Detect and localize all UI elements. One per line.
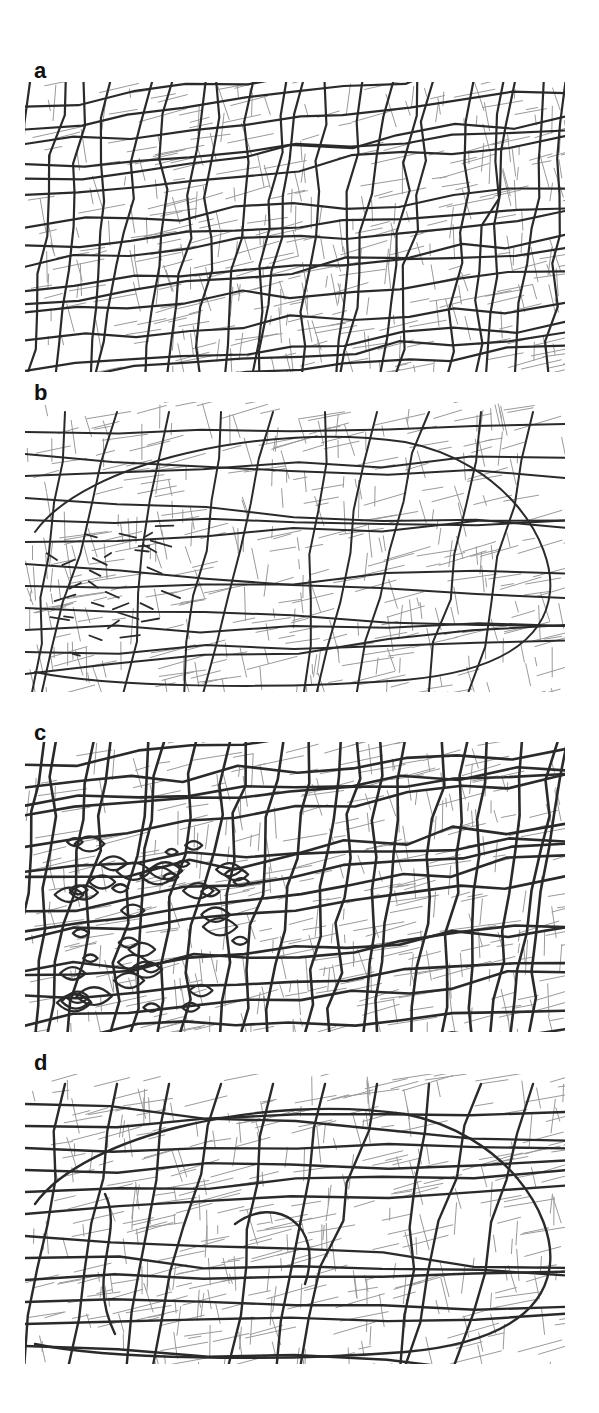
major-streets — [25, 1084, 565, 1364]
minor-streets — [25, 1074, 565, 1364]
panel-d: d — [0, 1052, 599, 1374]
panel-c: c — [0, 722, 599, 1042]
street-network-map — [25, 82, 565, 372]
panel-label: c — [34, 722, 46, 744]
major-streets — [25, 742, 565, 1032]
panel-a: a — [0, 60, 599, 382]
street-network-map — [25, 1074, 565, 1364]
street-network-map — [25, 402, 565, 692]
major-streets — [25, 82, 565, 372]
panel-label: a — [34, 60, 46, 82]
panel-b: b — [0, 382, 599, 702]
panel-label: d — [34, 1052, 47, 1074]
panel-label: b — [34, 382, 47, 404]
street-network-map — [25, 742, 565, 1032]
